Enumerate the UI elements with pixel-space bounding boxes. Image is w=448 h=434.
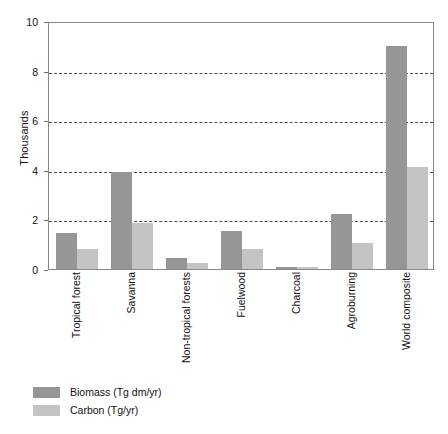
bar-group [111,23,153,269]
bar-group [56,23,98,269]
chart-legend: Biomass (Tg dm/yr)Carbon (Tg/yr) [33,385,253,421]
legend-swatch-carbon [33,405,60,416]
y-tick-mark [44,270,48,271]
bar-group [166,23,208,269]
legend-label: Carbon (Tg/yr) [70,405,138,416]
bar-biomass[interactable] [111,172,132,269]
bar-biomass[interactable] [221,231,242,269]
y-axis-ticks: 0246810 [0,22,48,270]
bar-carbon[interactable] [132,223,153,269]
legend-swatch-biomass [33,387,60,398]
bar-group [386,23,428,269]
legend-item[interactable]: Carbon (Tg/yr) [33,403,253,418]
x-tick-label: Charcoal [291,272,302,314]
x-axis-label-agroburning: Agroburning [344,272,358,362]
bar-carbon[interactable] [352,243,373,269]
bar-group [276,23,318,269]
x-axis-label-savanna: Savanna [124,272,138,362]
y-tick-label: 0 [4,265,38,275]
x-tick-label: World composite [401,272,412,350]
bar-biomass[interactable] [386,46,407,269]
y-tick-label: 6 [4,116,38,126]
x-axis-category-labels: Tropical forestSavannaNon-tropical fores… [48,272,434,362]
x-tick-label: Tropical forest [70,272,81,338]
y-tick-label: 8 [4,67,38,77]
bar-biomass[interactable] [331,214,352,269]
bar-carbon[interactable] [77,249,98,269]
legend-label: Biomass (Tg dm/yr) [70,387,162,398]
bar-carbon[interactable] [297,267,318,269]
x-axis-label-charcoal: Charcoal [289,272,303,362]
x-tick-label: Fuelwood [236,272,247,318]
bars-layer [49,23,433,269]
x-tick-label: Savanna [125,272,136,313]
y-tick-label: 4 [4,166,38,176]
bar-carbon[interactable] [407,167,428,269]
x-tick-label: Agroburning [346,272,357,329]
bar-carbon[interactable] [242,249,263,269]
bar-carbon[interactable] [187,263,208,269]
x-tick-label: Non-tropical forests [180,272,191,363]
x-axis-label-non-tropical-forests: Non-tropical forests [179,272,193,362]
bar-biomass[interactable] [56,233,77,269]
x-axis-label-fuelwood: Fuelwood [234,272,248,362]
bar-group [331,23,373,269]
bar-biomass[interactable] [276,267,297,269]
x-axis-label-tropical-forest: Tropical forest [69,272,83,362]
bar-chart-figure: Thousands 0246810 Tropical forestSavanna… [0,0,448,434]
x-axis-label-world-composite: World composite [399,272,413,362]
bar-biomass[interactable] [166,258,187,269]
plot-area [48,22,434,270]
y-tick-label: 2 [4,215,38,225]
y-tick-label: 10 [4,17,38,27]
legend-item[interactable]: Biomass (Tg dm/yr) [33,385,253,400]
bar-group [221,23,263,269]
